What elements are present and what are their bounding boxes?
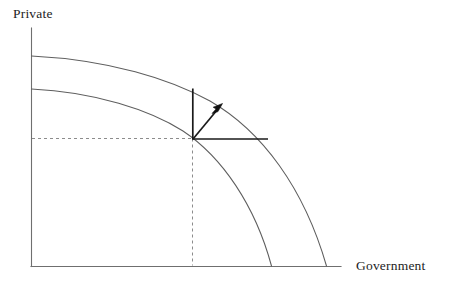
y-axis-label: Private: [13, 7, 53, 21]
ppf-diagram: Private Government: [0, 0, 449, 285]
ppf-chart-canvas: [0, 0, 449, 285]
x-axis-label: Government: [356, 259, 425, 273]
inner-frontier-curve: [32, 89, 272, 266]
outer-frontier-curve: [32, 56, 327, 266]
mixed-expansion-vector: [193, 110, 218, 140]
